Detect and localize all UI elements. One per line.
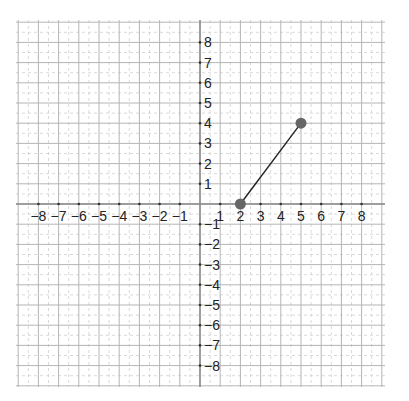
y-tick-label: 3 (204, 135, 212, 151)
x-tick-mark (259, 203, 262, 206)
y-tick-mark (199, 344, 202, 347)
x-tick-label: 5 (297, 208, 305, 224)
x-tick-mark (360, 203, 363, 206)
x-tick-label: −2 (152, 208, 168, 224)
x-tick-mark (340, 203, 343, 206)
x-tick-label: 8 (358, 208, 366, 224)
x-tick-mark (219, 203, 222, 206)
y-tick-label: −3 (204, 257, 220, 273)
y-tick-mark (199, 364, 202, 367)
y-tick-label: 2 (204, 156, 212, 172)
y-tick-label: 7 (204, 55, 212, 71)
y-tick-mark (199, 284, 202, 287)
x-tick-label: −5 (91, 208, 107, 224)
x-tick-mark (37, 203, 40, 206)
x-tick-mark (118, 203, 121, 206)
point-marker (235, 199, 246, 210)
y-tick-label: −4 (204, 277, 220, 293)
x-tick-mark (179, 203, 182, 206)
y-tick-label: −7 (204, 337, 220, 353)
y-tick-mark (199, 162, 202, 165)
y-tick-mark (199, 263, 202, 266)
y-tick-mark (199, 304, 202, 307)
y-tick-label: −1 (204, 216, 220, 232)
y-tick-label: −5 (204, 297, 220, 313)
y-tick-label: 4 (204, 115, 212, 131)
y-tick-label: 8 (204, 34, 212, 50)
y-tick-mark (199, 41, 202, 44)
x-tick-label: −7 (51, 208, 67, 224)
x-tick-label: −4 (111, 208, 127, 224)
y-tick-mark (199, 102, 202, 105)
y-tick-mark (199, 61, 202, 64)
y-tick-label: −6 (204, 317, 220, 333)
x-tick-mark (57, 203, 60, 206)
y-tick-label: 6 (204, 75, 212, 91)
x-tick-mark (280, 203, 283, 206)
y-tick-label: 1 (204, 176, 212, 192)
y-tick-mark (199, 142, 202, 145)
x-tick-label: 6 (317, 208, 325, 224)
y-tick-mark (199, 183, 202, 186)
y-tick-mark (199, 122, 202, 125)
x-tick-mark (98, 203, 101, 206)
y-tick-mark (199, 324, 202, 327)
x-tick-label: 4 (277, 208, 285, 224)
x-tick-label: 3 (257, 208, 265, 224)
x-tick-label: −6 (71, 208, 87, 224)
axes (16, 20, 385, 387)
y-tick-mark (199, 223, 202, 226)
x-tick-mark (158, 203, 161, 206)
x-tick-mark (300, 203, 303, 206)
x-tick-label: 2 (237, 208, 245, 224)
y-tick-label: 5 (204, 95, 212, 111)
y-tick-label: −2 (204, 236, 220, 252)
y-tick-label: −8 (204, 358, 220, 374)
x-tick-mark (320, 203, 323, 206)
x-tick-mark (138, 203, 141, 206)
x-tick-label: −1 (172, 208, 188, 224)
x-tick-mark (78, 203, 81, 206)
point-marker (296, 118, 307, 129)
x-tick-label: 7 (338, 208, 346, 224)
y-tick-mark (199, 82, 202, 85)
y-tick-mark (199, 243, 202, 246)
coordinate-plane: −8−7−6−5−4−3−2−11234567887654321−1−2−3−4… (0, 0, 409, 401)
x-tick-label: −8 (30, 208, 46, 224)
x-tick-label: −3 (131, 208, 147, 224)
